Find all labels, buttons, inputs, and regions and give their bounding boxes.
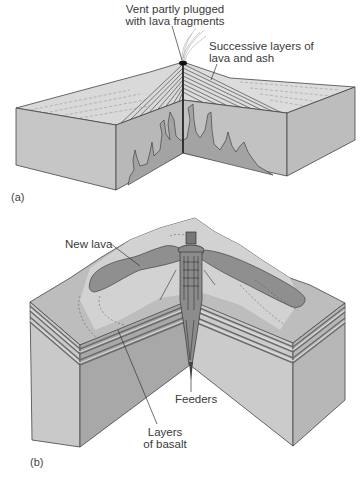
- layers-label-line-2: lava and ash: [209, 52, 314, 64]
- vent-label: Vent partly plugged with lava fragments: [125, 3, 225, 27]
- vent-label-line-1: Vent partly plugged: [125, 3, 225, 15]
- basalt-label-line-2: of basalt: [135, 438, 195, 450]
- ash-plume: [182, 28, 206, 60]
- basalt-label: Layers of basalt: [135, 426, 195, 450]
- panel-a-tag: (a): [11, 191, 24, 203]
- feeders-label: Feeders: [175, 393, 217, 405]
- new-lava-label: New lava: [65, 238, 112, 250]
- panel-b-tag: (b): [30, 456, 43, 468]
- panel-a-illustration: [0, 0, 363, 477]
- layers-label-line-1: Successive layers of: [209, 40, 314, 52]
- layers-label: Successive layers of lava and ash: [209, 40, 314, 64]
- vent-label-line-2: with lava fragments: [125, 15, 225, 27]
- vent-leader-line: [172, 26, 182, 60]
- basalt-label-line-1: Layers: [135, 426, 195, 438]
- vent-plug: [179, 61, 187, 66]
